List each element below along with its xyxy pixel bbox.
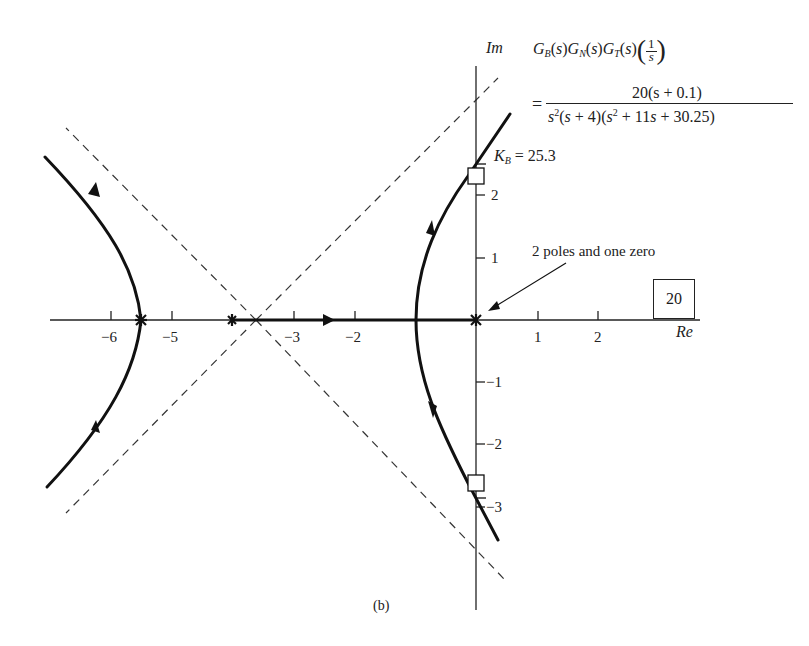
arrow-real-axis bbox=[323, 314, 335, 326]
locus-left-upper bbox=[45, 157, 141, 320]
tick-labels: −6 −5 −3 −2 1 2 2 1 −1 −2 −3 bbox=[101, 187, 602, 515]
gain-box: 20 bbox=[653, 279, 695, 319]
transfer-function-lhs: GB(s)GN(s)GT(s)(1s) bbox=[533, 34, 666, 66]
transfer-function-numerator: 20(s + 0.1) bbox=[632, 84, 702, 102]
pole-marker-double-minus-5-5 bbox=[135, 314, 147, 326]
gain-box-value: 20 bbox=[666, 290, 682, 308]
arrow-right-upper bbox=[426, 220, 435, 236]
svg-text:−3: −3 bbox=[486, 499, 502, 515]
locus-left-lower bbox=[47, 320, 141, 487]
crossing-square-lower bbox=[468, 475, 484, 491]
gain-label: KB = 25.3 bbox=[494, 147, 556, 166]
svg-text:−1: −1 bbox=[486, 374, 502, 390]
svg-text:−2: −2 bbox=[486, 436, 502, 452]
equals-sign: = bbox=[532, 94, 542, 115]
svg-text:2: 2 bbox=[491, 187, 499, 203]
real-axis-label: Re bbox=[675, 323, 693, 340]
annotation-arrow bbox=[488, 263, 566, 311]
asymptote-upper-left bbox=[66, 128, 256, 320]
svg-text:−2: −2 bbox=[345, 329, 361, 345]
imag-axis-label: Im bbox=[485, 39, 503, 56]
asymptote-upper-right bbox=[256, 78, 498, 320]
crossing-markers bbox=[468, 164, 486, 498]
figure-caption: (b) bbox=[373, 598, 389, 614]
transfer-function-denominator: s2(s + 4)(s2 + 11s + 30.25) bbox=[548, 107, 715, 126]
locus-right-upper bbox=[416, 114, 510, 320]
svg-text:−3: −3 bbox=[284, 329, 300, 345]
svg-text:2: 2 bbox=[594, 329, 602, 345]
svg-text:−6: −6 bbox=[101, 329, 117, 345]
fraction-bar bbox=[546, 103, 793, 104]
axes bbox=[50, 66, 700, 610]
arrow-left-upper bbox=[88, 182, 100, 197]
svg-text:1: 1 bbox=[534, 329, 542, 345]
crossing-square-upper bbox=[468, 168, 484, 184]
svg-text:−5: −5 bbox=[162, 329, 178, 345]
annotation-text: 2 poles and one zero bbox=[532, 243, 655, 260]
asymptote-lower-right bbox=[256, 320, 505, 580]
asymptote-lower-left bbox=[66, 320, 256, 513]
svg-text:1: 1 bbox=[491, 250, 499, 266]
